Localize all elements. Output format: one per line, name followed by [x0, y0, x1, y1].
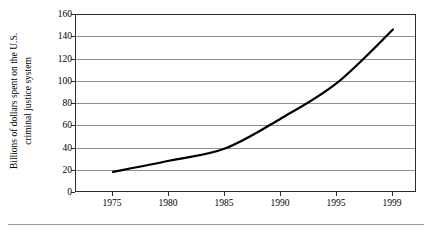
- x-tick-mark-1995: [336, 192, 337, 196]
- plot-area: [75, 14, 416, 192]
- y-tick-label-0: 0: [38, 187, 72, 197]
- y-axis-title: Billions of dollars spent on the U.S. cr…: [4, 10, 38, 192]
- x-tick-label-1975: 1975: [103, 198, 122, 209]
- x-tick-mark-1980: [168, 192, 169, 196]
- y-axis-tick-labels: 0 20 40 60 80 100 120 140 160: [38, 0, 72, 237]
- chart-figure: Billions of dollars spent on the U.S. cr…: [0, 0, 432, 237]
- x-tick-label-1999: 1999: [383, 198, 402, 209]
- y-tick-label-120: 120: [38, 54, 72, 64]
- x-tick-mark-1985: [224, 192, 225, 196]
- y-tick-label-160: 160: [38, 9, 72, 19]
- y-axis-title-line-1: Billions of dollars spent on the U.S.: [8, 33, 22, 169]
- y-tick-label-100: 100: [38, 76, 72, 86]
- series-path-spending: [113, 29, 393, 171]
- x-tick-mark-1975: [112, 192, 113, 196]
- x-tick-mark-1990: [280, 192, 281, 196]
- y-tick-mark-0: [71, 192, 75, 193]
- x-tick-mark-1999: [392, 192, 393, 196]
- x-tick-label-1990: 1990: [271, 198, 290, 209]
- y-axis-title-text: Billions of dollars spent on the U.S. cr…: [8, 33, 35, 169]
- data-series-line: [76, 15, 417, 193]
- y-tick-label-20: 20: [38, 165, 72, 175]
- x-tick-label-1985: 1985: [215, 198, 234, 209]
- x-tick-label-1995: 1995: [327, 198, 346, 209]
- y-tick-label-40: 40: [38, 143, 72, 153]
- y-axis-title-line-2: criminal justice system: [21, 33, 35, 169]
- y-tick-label-140: 140: [38, 31, 72, 41]
- footer-divider: [8, 224, 424, 225]
- y-tick-label-80: 80: [38, 98, 72, 108]
- y-tick-label-60: 60: [38, 120, 72, 130]
- x-tick-label-1980: 1980: [159, 198, 178, 209]
